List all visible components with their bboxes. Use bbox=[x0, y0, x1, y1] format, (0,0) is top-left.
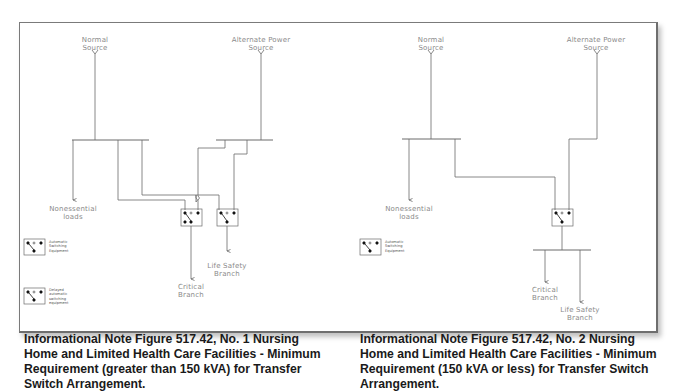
fig2-caption: Informational Note Figure 517.42, No. 2 … bbox=[360, 332, 660, 392]
fig1-caption: Informational Note Figure 517.42, No. 1 … bbox=[24, 332, 324, 392]
fig1-critical-label: Critical Branch bbox=[171, 283, 211, 299]
fig2-nonessential-label: Nonessential loads bbox=[384, 205, 434, 221]
fig2-normal-source-label: Normal Source bbox=[411, 36, 451, 52]
fig1-nonessential-label: Nonessential loads bbox=[48, 205, 98, 221]
fig1-normal-source-label: Normal Source bbox=[75, 36, 115, 52]
fig1-alternate-source-label: Alternate Power Source bbox=[226, 36, 296, 52]
fig2-life-safety-label: Life Safety Branch bbox=[555, 306, 605, 322]
fig2-critical-label: Critical Branch bbox=[525, 286, 565, 302]
fig1-legend-delayed-label: Delayed automatic switching equipment bbox=[49, 288, 68, 306]
fig1-legend-auto-label: Automatic Switching Equipment bbox=[49, 240, 69, 253]
figure-2-wiring bbox=[360, 50, 600, 302]
fig2-legend-auto-label: Automatic Switching Equipment bbox=[385, 240, 405, 253]
fig1-life-safety-label: Life Safety Branch bbox=[202, 262, 252, 278]
fig2-alternate-source-label: Alternate Power Source bbox=[561, 36, 631, 52]
